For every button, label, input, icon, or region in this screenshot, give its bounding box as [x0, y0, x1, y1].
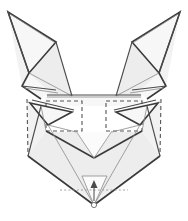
origami-figure: [0, 0, 188, 221]
origami-diagram: [0, 0, 188, 221]
chin-pivot-dot: [91, 202, 96, 207]
left-ear: [8, 12, 72, 99]
right-ear: [116, 12, 180, 99]
